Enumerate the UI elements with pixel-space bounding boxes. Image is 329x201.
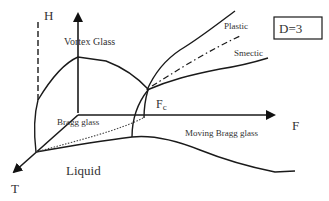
smectic-label: Smectic [234, 48, 263, 58]
phase-diagram: H F T Vortex Glass Bragg glass Moving Br… [0, 0, 329, 201]
bragg-glass-label: Bragg glass [57, 117, 100, 127]
critical-force-subscript: c [163, 102, 167, 112]
vortex-glass-boundary [38, 57, 149, 100]
dimension-label: D=3 [279, 21, 302, 36]
plastic-label: Plastic [224, 21, 248, 31]
t-axis-label: T [11, 181, 19, 196]
left-boundary [35, 100, 38, 152]
smectic-dashdot-boundary [152, 36, 240, 86]
liquid-label: Liquid [66, 163, 101, 178]
h-axis-label: H [44, 8, 53, 23]
moving-bragg-glass-label: Moving Bragg glass [185, 128, 258, 138]
vortex-glass-label: Vortex Glass [64, 36, 115, 47]
plastic-boundary [147, 11, 235, 90]
critical-force-label: Fc [156, 97, 167, 112]
f-axis-label: F [292, 118, 299, 133]
